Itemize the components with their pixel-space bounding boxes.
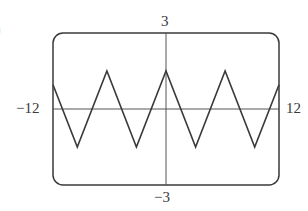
x-max-tick-label: 12	[286, 101, 301, 116]
y-min-tick-label: −3	[154, 190, 170, 205]
part-label: )	[0, 18, 1, 40]
x-min-tick-label: −12	[16, 101, 39, 116]
y-max-tick-label: 3	[161, 14, 169, 29]
plot-area	[0, 0, 308, 211]
